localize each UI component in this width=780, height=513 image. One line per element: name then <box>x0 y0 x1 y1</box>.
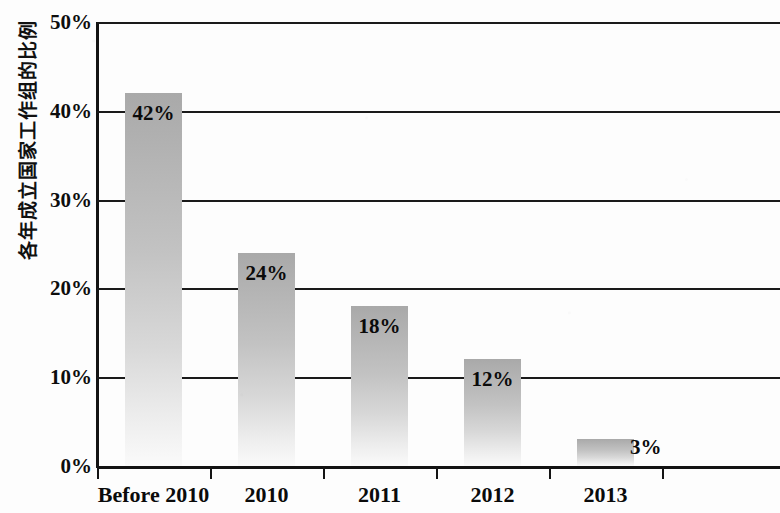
y-tick-label: 20% <box>6 276 92 300</box>
y-tick-label: 50% <box>6 10 92 34</box>
x-axis-category-label: 2013 <box>549 482 662 508</box>
bar <box>125 93 182 466</box>
bar-data-label: 3% <box>630 435 682 460</box>
x-axis-tick <box>436 466 438 479</box>
y-tick-label: 40% <box>6 99 92 123</box>
bar-data-label: 24% <box>238 261 295 286</box>
x-axis-category-label: 2010 <box>210 482 323 508</box>
plot-area: 42%24%18%12%3% <box>97 22 780 466</box>
bar <box>577 439 634 466</box>
x-axis-category-label: 2011 <box>323 482 436 508</box>
x-axis-tick <box>210 466 212 479</box>
gridline <box>97 377 780 379</box>
gridline <box>97 22 780 24</box>
y-tick-label: 10% <box>6 365 92 389</box>
x-axis-line <box>97 466 780 469</box>
y-tick-label: 0% <box>6 454 92 478</box>
bar-data-label: 18% <box>351 314 408 339</box>
x-axis-category-label: Before 2010 <box>97 482 210 508</box>
y-axis-tick-labels: 0%10%20%30%40%50% <box>0 0 92 513</box>
x-axis-category-label: 2012 <box>436 482 549 508</box>
x-axis-tick <box>549 466 551 479</box>
x-axis-tick <box>662 466 664 479</box>
gridline <box>97 200 780 202</box>
x-axis-tick <box>323 466 325 479</box>
gridline <box>97 288 780 290</box>
x-axis-tick <box>97 466 99 479</box>
chart-figure: 各年成立国家工作组的比例 0%10%20%30%40%50% 42%24%18%… <box>0 0 780 513</box>
gridline <box>97 111 780 113</box>
bar-data-label: 42% <box>125 101 182 126</box>
y-tick-label: 30% <box>6 188 92 212</box>
bar-data-label: 12% <box>464 367 521 392</box>
